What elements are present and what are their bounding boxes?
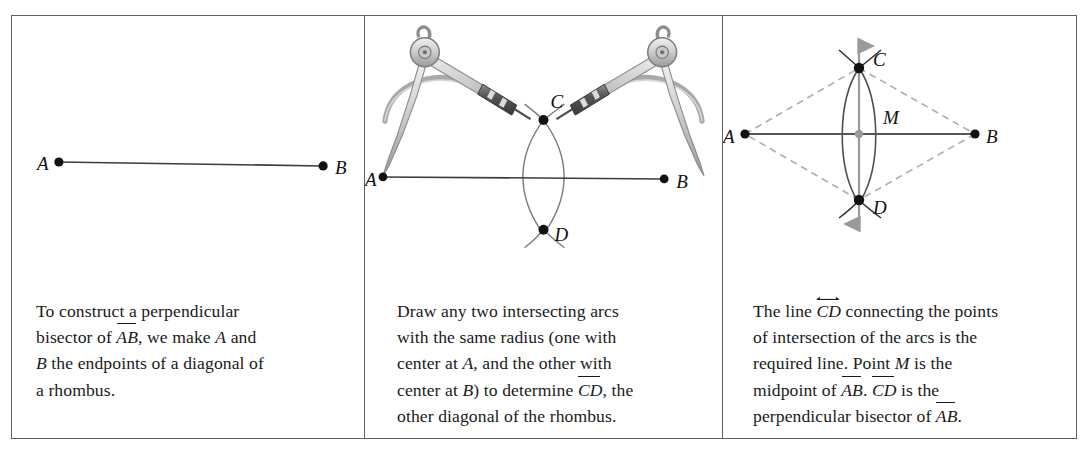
panel-compass-arcs: A B C D Draw any two intersecting arcs w… (365, 16, 723, 438)
compass-left (383, 27, 531, 176)
line-cd-text: CD (816, 301, 841, 321)
compass-right-needle-leg (660, 58, 704, 176)
point-a-label: A (723, 126, 735, 147)
panel-3-diagram: A B C D M (723, 16, 1076, 288)
segment-cd-notation: CD (578, 377, 603, 403)
point-b-dot (660, 175, 669, 184)
caption-line-4-post: is the (897, 380, 940, 400)
compass-left-arc-highlight (385, 80, 463, 121)
caption-line-1-post: connecting the points (841, 301, 998, 321)
point-d-dot (854, 195, 864, 205)
caption-line-4: a rhombus. (36, 380, 115, 400)
compass-right-hinge-pin (660, 50, 664, 54)
figure-frame: A B To construct a perpendicular bisecto… (11, 15, 1077, 439)
point-b-dot (970, 129, 979, 138)
caption-line-3-post: , and the other with (473, 353, 611, 373)
point-d-label: D (553, 224, 568, 245)
panel-1-diagram: A B (12, 16, 364, 288)
point-m-label: M (882, 107, 900, 128)
point-b-label: B (335, 157, 347, 178)
caption-line-5-pre: perpendicular bisector of (753, 406, 936, 426)
arc-from-b (544, 120, 565, 230)
caption-line-5-post: . (958, 406, 963, 426)
compass-right-arc-highlight (624, 80, 702, 121)
caption-line-1: To construct a perpendicular (36, 301, 239, 321)
variable-a: A (462, 353, 473, 373)
panel-2-diagram: A B C D (365, 16, 722, 288)
caption-line-3-pre: required line. Point (753, 353, 895, 373)
point-a-dot (379, 173, 388, 182)
caption-line-4-pre: center at (397, 380, 462, 400)
line-cd-notation: CD (816, 298, 841, 324)
panel-3-caption: The line CD connecting the points of int… (753, 298, 1068, 429)
caption-line-3-post: is the (910, 353, 953, 373)
caption-line-2: of intersection of the arcs is the (753, 327, 977, 347)
segment-ab-line (383, 177, 664, 179)
point-a-dot (740, 129, 749, 138)
caption-line-1: Draw any two intersecting arcs (397, 301, 619, 321)
compass-left-lead-holder (478, 84, 517, 115)
rhombus-side-cb (859, 68, 975, 134)
caption-line-5: other diagonal of the rhombus. (397, 406, 616, 426)
segment-ab-notation: AB (116, 324, 138, 350)
panel-2-caption: Draw any two intersecting arcs with the … (397, 298, 712, 429)
variable-b: B (36, 353, 47, 373)
point-c-dot (854, 63, 864, 73)
point-a-dot (54, 157, 63, 166)
compass-left-hinge-pin (423, 50, 427, 54)
point-m-dot (855, 130, 863, 138)
variable-b: B (462, 380, 473, 400)
point-d-dot (539, 225, 549, 235)
point-c-label: C (873, 49, 886, 70)
panel-segment-ab: A B To construct a perpendicular bisecto… (12, 16, 365, 438)
segment-ab-notation: AB (841, 377, 863, 403)
caption-line-2-mid: , we make (138, 327, 215, 347)
panel-rhombus-bisector: A B C D M The line CD connecting the poi… (723, 16, 1076, 438)
caption-line-4-mid: ) to determine (473, 380, 578, 400)
point-d-label: D (872, 197, 887, 218)
panel-1-caption: To construct a perpendicular bisector of… (36, 298, 350, 403)
point-b-dot (319, 161, 328, 170)
caption-line-2: with the same radius (one with (397, 327, 616, 347)
caption-line-1-pre: The line (753, 301, 816, 321)
point-a-label: A (365, 169, 377, 190)
caption-line-4-mid: . (863, 380, 872, 400)
point-c-label: C (550, 91, 563, 112)
segment-ab-line (59, 162, 323, 166)
variable-a: A (215, 327, 226, 347)
segment-cd-notation: CD (872, 377, 897, 403)
arc-from-a (523, 120, 544, 230)
compass-left-needle-leg (383, 58, 427, 176)
caption-line-2-pre: bisector of (36, 327, 116, 347)
caption-line-4-post: , the (603, 380, 634, 400)
caption-line-3-pre: center at (397, 353, 462, 373)
caption-line-2-post: and (226, 327, 256, 347)
compass-right-lead-holder (570, 84, 609, 115)
compass-right (556, 27, 704, 176)
variable-m: M (895, 353, 910, 373)
rhombus-side-bd (859, 134, 975, 200)
caption-line-4-pre: midpoint of (753, 380, 841, 400)
point-c-dot (539, 115, 549, 125)
point-b-label: B (986, 126, 998, 147)
segment-ab-notation-2: AB (936, 403, 958, 429)
caption-line-3-post: the endpoints of a diagonal of (47, 353, 264, 373)
point-a-label: A (35, 153, 49, 174)
compass-left-lead-tip (515, 109, 531, 119)
point-b-label: B (676, 171, 688, 192)
